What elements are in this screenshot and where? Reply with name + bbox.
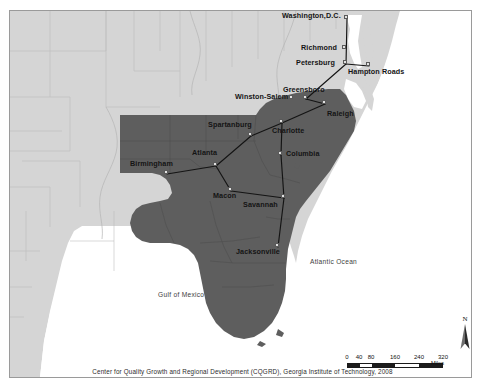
scale-bar-tick: 160 (390, 354, 400, 360)
city-node (343, 60, 347, 64)
city-label: Charlotte (272, 127, 304, 134)
map-figure: Washington,D.C.RichmondPetersburgHampton… (0, 0, 485, 390)
city-label: Columbia (286, 150, 320, 157)
city-label: Atlanta (192, 149, 217, 156)
city-node (342, 45, 346, 49)
city-node (281, 194, 285, 198)
city-label: Savannah (243, 201, 278, 208)
city-label: Hampton Roads (348, 68, 404, 75)
city-node (322, 100, 326, 104)
scale-bar-tick: 0 (345, 354, 348, 360)
map-base-layer (10, 11, 471, 377)
water-body-label: Atlantic Ocean (310, 258, 357, 265)
north-arrow: N (454, 316, 472, 354)
scale-bar-tick: 240 (414, 354, 424, 360)
city-label: Petersburg (296, 59, 335, 66)
city-node (278, 151, 282, 155)
city-node (303, 95, 307, 99)
city-node (289, 95, 293, 99)
scale-bar-tick: 40 (356, 354, 363, 360)
map-frame: Washington,D.C.RichmondPetersburgHampton… (9, 10, 472, 378)
city-label: Macon (213, 192, 236, 199)
city-node (344, 15, 348, 19)
scale-bar: 04080160240320 Miles (347, 354, 443, 368)
city-node (248, 132, 252, 136)
north-arrow-icon (458, 324, 472, 350)
city-label: Greensboro (283, 86, 325, 93)
footer-credit: Center for Quality Growth and Regional D… (0, 368, 485, 375)
city-label: Spartanburg (208, 121, 252, 128)
city-label: Birmingham (130, 160, 173, 167)
scale-bar-unit: Miles (431, 360, 444, 366)
city-label: Jacksonville (236, 248, 280, 255)
city-node (164, 170, 168, 174)
city-label: Richmond (301, 44, 337, 51)
city-label: Winston-Salem (235, 93, 288, 100)
city-node (279, 119, 283, 123)
city-node (366, 62, 370, 66)
scale-bar-tick: 80 (368, 354, 375, 360)
city-label: Washington,D.C. (282, 12, 341, 19)
north-arrow-label: N (454, 316, 472, 323)
city-node (213, 162, 217, 166)
scale-bar-ticks: 04080160240320 (347, 354, 443, 363)
water-body-label: Gulf of Mexico (158, 291, 204, 298)
city-label: Raleigh (327, 110, 354, 117)
